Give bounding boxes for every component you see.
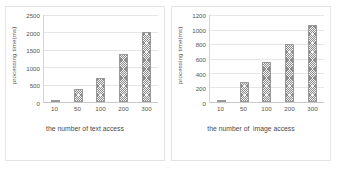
x-axis-ticks-left: 10 50 100 200 300: [43, 105, 158, 115]
x-axis-title-right: the number of image access: [178, 125, 324, 132]
bar: [51, 100, 60, 102]
y-axis-ticks-left: 2500 2000 1500 1000 500 0: [18, 15, 42, 103]
x-tick-label: 50: [66, 105, 89, 115]
bar: [96, 78, 105, 102]
x-axis-ticks-right: 10 50 100 200 300: [209, 105, 324, 115]
y-tick-label: 1000: [26, 64, 40, 71]
plot-area-right: [209, 15, 324, 103]
bar: [217, 100, 226, 102]
x-tick-label: 100: [89, 105, 112, 115]
figure-container: processing time(ms) 2500 2000 1500 1000 …: [0, 0, 337, 171]
bar: [74, 89, 83, 102]
y-tick-label: 0: [37, 100, 40, 107]
y-tick-label: 600: [196, 56, 206, 63]
y-tick-label: 1200: [192, 12, 206, 19]
bar-slot: [301, 15, 324, 102]
y-tick-label: 800: [196, 41, 206, 48]
bar: [262, 62, 271, 102]
bar-slot: [44, 15, 67, 102]
y-tick-label: 400: [196, 70, 206, 77]
bar-slot: [256, 15, 279, 102]
bar-slot: [233, 15, 256, 102]
bar: [119, 54, 128, 102]
y-tick-label: 1000: [192, 26, 206, 33]
plot-area-left: [43, 15, 158, 103]
bar-series-right: [210, 15, 324, 102]
bar-slot: [210, 15, 233, 102]
bar-slot: [112, 15, 135, 102]
y-tick-label: 2000: [26, 29, 40, 36]
chart-panel-text-access: processing time(ms) 2500 2000 1500 1000 …: [5, 6, 165, 161]
x-tick-label: 50: [232, 105, 255, 115]
plot-wrapper-right: processing time(ms) 1200 1000 800 600 40…: [172, 7, 330, 160]
x-tick-label: 100: [255, 105, 278, 115]
bar: [142, 32, 151, 102]
y-axis-title-right-text: processing time(ms): [177, 26, 184, 84]
bar: [285, 44, 294, 102]
bar-slot: [135, 15, 158, 102]
bar-slot: [278, 15, 301, 102]
plot-wrapper-left: processing time(ms) 2500 2000 1500 1000 …: [6, 7, 164, 160]
chart-panel-image-access: processing time(ms) 1200 1000 800 600 40…: [171, 6, 331, 161]
bar-slot: [67, 15, 90, 102]
y-tick-label: 2500: [26, 12, 40, 19]
x-tick-label: 300: [135, 105, 158, 115]
x-tick-label: 200: [278, 105, 301, 115]
x-axis-title-left: the number of text access: [12, 125, 158, 132]
y-tick-label: 200: [196, 85, 206, 92]
x-tick-label: 200: [112, 105, 135, 115]
y-axis-title-left-text: processing time(ms): [11, 26, 18, 84]
y-tick-label: 0: [203, 100, 206, 107]
bar: [240, 82, 249, 102]
bar-series-left: [44, 15, 158, 102]
y-tick-label: 1500: [26, 47, 40, 54]
x-tick-label: 10: [209, 105, 232, 115]
y-tick-label: 500: [30, 82, 40, 89]
x-tick-label: 300: [301, 105, 324, 115]
bar: [308, 25, 317, 102]
x-tick-label: 10: [43, 105, 66, 115]
y-axis-ticks-right: 1200 1000 800 600 400 200 0: [184, 15, 208, 103]
bar-slot: [90, 15, 113, 102]
